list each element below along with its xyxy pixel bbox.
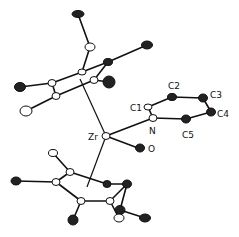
label-n: N bbox=[149, 126, 156, 136]
molecular-structure-diagram: Zr N O C1 C2 C3 C4 C5 bbox=[0, 0, 239, 237]
label-zr: Zr bbox=[88, 132, 98, 142]
label-c4: C4 bbox=[217, 109, 229, 119]
label-o: O bbox=[148, 144, 155, 154]
label-c1: C1 bbox=[130, 103, 142, 113]
atoms bbox=[11, 11, 216, 226]
label-c5: C5 bbox=[182, 130, 194, 140]
label-c3: C3 bbox=[210, 90, 222, 100]
label-c2: C2 bbox=[168, 81, 180, 91]
